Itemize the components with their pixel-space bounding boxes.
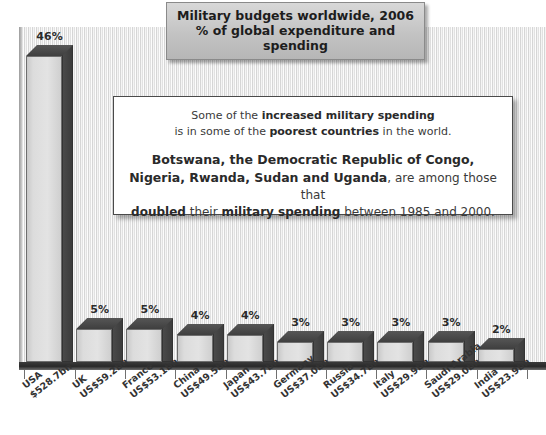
- bar-value-label: 2%: [474, 323, 529, 336]
- callout-p1-text-b: is in some of the: [175, 125, 270, 138]
- bar-value-label: 3%: [323, 316, 378, 329]
- chart-left-edge: [19, 27, 22, 370]
- bar-value-label: 3%: [424, 316, 479, 329]
- axis-tick: [527, 370, 528, 379]
- chart-title-line-1: Military budgets worldwide, 2006: [173, 8, 418, 23]
- bar-value-label: 5%: [122, 303, 177, 316]
- bar-front-face: [26, 56, 62, 362]
- bar-value-label: 3%: [373, 316, 428, 329]
- bar-value-label: 4%: [223, 309, 278, 322]
- bar-value-label: 4%: [173, 309, 228, 322]
- callout-p2-text-b: their: [186, 205, 222, 219]
- callout-p2-bold-d: military spending: [221, 205, 340, 219]
- bar-value-label: 3%: [273, 316, 328, 329]
- callout-p2-bold-b: Nigeria, Rwanda, Sudan and Uganda: [129, 170, 387, 185]
- callout-annotation-box: Some of the increased military spending …: [113, 96, 513, 215]
- callout-p2-bold-a: Botswana, the Democratic Republic of Con…: [152, 152, 475, 167]
- callout-p2-bold-c: doubled: [131, 205, 186, 219]
- bar-usa: [26, 45, 73, 362]
- callout-p2-text-c: between 1985 and 2000.: [340, 205, 495, 219]
- callout-p1-text-c: in the world.: [379, 125, 451, 138]
- chart-title-line-2: % of global expenditure and spending: [173, 23, 418, 53]
- callout-paragraph-2: Botswana, the Democratic Republic of Con…: [124, 151, 502, 221]
- callout-p1-bold-a: increased military spending: [262, 109, 435, 122]
- callout-p1-text-a: Some of the: [191, 109, 261, 122]
- chart-title-box: Military budgets worldwide, 2006 % of gl…: [166, 2, 425, 60]
- callout-p1-bold-b: poorest countries: [269, 125, 379, 138]
- bar-value-label: 5%: [72, 303, 127, 316]
- bar-value-label: 46%: [22, 30, 77, 43]
- callout-paragraph-1: Some of the increased military spending …: [124, 108, 502, 140]
